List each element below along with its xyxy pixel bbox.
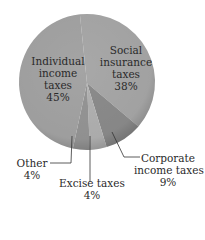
label-individual: Individual income taxes 45% <box>28 55 88 103</box>
label-other-pct: 4% <box>12 169 52 181</box>
label-individual-line1: Individual <box>28 55 88 67</box>
label-social-line1: Social <box>96 44 156 56</box>
label-social-line3: taxes <box>96 68 156 80</box>
label-excise: Excise taxes 4% <box>58 177 126 201</box>
label-social: Social insurance taxes 38% <box>96 44 156 92</box>
label-corporate-line1: Corporate <box>134 152 202 164</box>
label-social-line2: insurance <box>96 56 156 68</box>
label-excise-pct: 4% <box>58 189 126 201</box>
label-corporate: Corporate income taxes 9% <box>134 152 202 188</box>
label-other-line1: Other <box>12 157 52 169</box>
label-corporate-pct: 9% <box>134 176 202 188</box>
label-excise-line1: Excise taxes <box>58 177 126 189</box>
label-corporate-line2: income taxes <box>134 164 202 176</box>
label-individual-line3: taxes <box>28 79 88 91</box>
label-individual-line2: income <box>28 67 88 79</box>
label-other: Other 4% <box>12 157 52 181</box>
label-individual-pct: 45% <box>28 91 88 103</box>
label-social-pct: 38% <box>96 80 156 92</box>
